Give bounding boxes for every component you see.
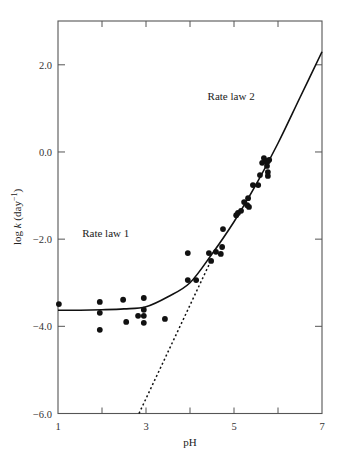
annotations: Rate law 1Rate law 2 xyxy=(82,90,254,239)
y-tick-label: 2.0 xyxy=(39,60,52,71)
annotation-rate-law-2: Rate law 2 xyxy=(208,90,255,102)
data-point xyxy=(238,208,244,214)
data-point xyxy=(97,327,103,333)
data-point xyxy=(266,157,272,163)
data-point xyxy=(97,299,103,305)
data-point xyxy=(264,163,270,169)
y-tick-label: −2.0 xyxy=(33,234,52,245)
data-point xyxy=(218,251,224,257)
data-point xyxy=(141,295,147,301)
data-point xyxy=(246,204,252,210)
data-point xyxy=(135,313,141,319)
x-tick-label: 5 xyxy=(231,421,236,432)
data-point xyxy=(97,310,103,316)
y-axis-label-unit: (day xyxy=(11,201,24,224)
data-point xyxy=(245,195,251,201)
data-point xyxy=(56,301,62,307)
x-tick-label: 7 xyxy=(319,421,324,432)
y-axis-label: log k (day−1) xyxy=(10,189,24,246)
plot-border xyxy=(58,21,322,414)
x-tick-label: 1 xyxy=(55,421,60,432)
data-point xyxy=(255,182,261,188)
data-point xyxy=(208,258,214,264)
data-point xyxy=(185,277,191,283)
data-point xyxy=(141,313,147,319)
data-point xyxy=(193,277,199,283)
data-point xyxy=(141,320,147,326)
data-point xyxy=(185,250,191,256)
data-point xyxy=(141,307,147,313)
x-axis-label: pH xyxy=(183,436,197,448)
fit-curve xyxy=(58,52,322,311)
data-point xyxy=(257,172,263,178)
y-tick-label: 0.0 xyxy=(39,147,52,158)
data-point xyxy=(219,244,225,250)
chart: 1357 2.00.0−2.0−4.0−6.0 Rate law 1Rate l… xyxy=(0,0,341,462)
data-point xyxy=(120,297,126,303)
annotation-rate-law-1: Rate law 1 xyxy=(82,227,129,239)
y-tick-label: −4.0 xyxy=(33,321,52,332)
plot-frame xyxy=(58,21,322,414)
data-point xyxy=(162,316,168,322)
data-points xyxy=(56,155,272,333)
data-point xyxy=(265,173,271,179)
data-point xyxy=(123,319,129,325)
x-tick-label: 3 xyxy=(143,421,148,432)
data-point xyxy=(220,226,226,232)
extrapolation-dotted-line xyxy=(139,263,210,413)
data-point xyxy=(250,182,256,188)
y-axis-label-prefix: log xyxy=(11,228,23,245)
y-axis-label-exponent: −1 xyxy=(10,193,19,202)
data-point xyxy=(206,250,212,256)
y-axis-ticks: 2.00.0−2.0−4.0−6.0 xyxy=(33,60,322,420)
y-axis-label-close: ) xyxy=(11,189,24,193)
y-tick-label: −6.0 xyxy=(33,409,52,420)
